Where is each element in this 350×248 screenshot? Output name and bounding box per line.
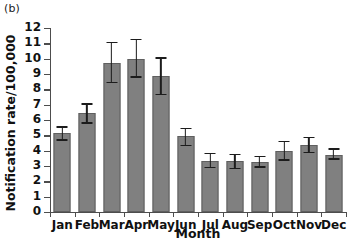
error-bar-cap-lower	[205, 167, 216, 168]
error-bar-feb	[81, 103, 92, 124]
error-bar-cap-upper	[229, 154, 240, 155]
error-bar-jun	[180, 128, 191, 146]
x-tick-mark	[124, 212, 125, 217]
bar-jul	[202, 161, 219, 212]
x-tick-mark	[247, 212, 248, 217]
y-tick-label: 12	[24, 20, 41, 35]
y-tick-label: 3	[33, 158, 41, 173]
error-bar-cap-upper	[131, 39, 142, 40]
error-bar-aug	[229, 154, 240, 169]
error-bar-cap-upper	[205, 153, 216, 154]
error-bar-cap-lower	[303, 152, 314, 153]
error-bar-stem	[308, 137, 309, 153]
error-bar-cap-lower	[81, 122, 92, 123]
x-tick-mark	[50, 212, 51, 217]
y-tick-label: 2	[33, 173, 41, 188]
x-tick-mark	[272, 212, 273, 217]
error-bar-nov	[303, 137, 314, 153]
bar-group-nov	[297, 28, 322, 212]
error-bar-cap-upper	[279, 141, 290, 142]
bar-group-mar	[99, 28, 124, 212]
x-tick-mark	[99, 212, 100, 217]
y-tick-label: 8	[33, 81, 41, 96]
bar-sep	[251, 162, 268, 212]
error-bar-cap-lower	[106, 82, 117, 83]
bar-group-sep	[247, 28, 272, 212]
y-tick-label: 10	[24, 51, 41, 66]
x-tick-mark	[173, 212, 174, 217]
error-bar-cap-lower	[180, 145, 191, 146]
x-tick-mark	[346, 212, 347, 217]
error-bar-stem	[284, 141, 285, 161]
error-bar-cap-upper	[57, 126, 68, 127]
bar-group-may	[149, 28, 174, 212]
error-bar-cap-upper	[155, 57, 166, 58]
y-tick-label: 7	[33, 97, 41, 112]
error-bar-apr	[131, 39, 142, 78]
bar-group-jun	[173, 28, 198, 212]
x-tick-mark	[198, 212, 199, 217]
error-bar-sep	[254, 156, 265, 168]
bar-jun	[177, 136, 194, 212]
y-tick-label: 1	[33, 189, 41, 204]
error-bar-mar	[106, 42, 117, 83]
error-bar-cap-upper	[328, 148, 339, 149]
y-tick-label: 4	[33, 143, 41, 158]
bar-jan	[54, 133, 71, 212]
x-tick-mark	[75, 212, 76, 217]
error-bar-cap-lower	[254, 166, 265, 167]
y-tick-label: 5	[33, 127, 41, 142]
error-bar-cap-upper	[303, 137, 314, 138]
x-tick-mark	[149, 212, 150, 217]
y-axis-title: Notification rate/100,000	[2, 30, 18, 216]
bar-nov	[300, 145, 317, 212]
bar-group-feb	[75, 28, 100, 212]
panel-label: (b)	[4, 3, 20, 15]
bar-series	[50, 28, 346, 212]
error-bar-may	[155, 57, 166, 95]
error-bar-stem	[111, 42, 112, 83]
y-tick-label: 11	[24, 35, 41, 50]
bar-group-jul	[198, 28, 223, 212]
bar-group-oct	[272, 28, 297, 212]
bar-group-jan	[50, 28, 75, 212]
y-tick-label: 0	[33, 204, 41, 219]
error-bar-cap-lower	[328, 158, 339, 159]
bar-apr	[128, 59, 145, 212]
error-bar-cap-lower	[279, 159, 290, 160]
bar-may	[152, 76, 169, 212]
error-bar-cap-lower	[155, 94, 166, 95]
error-bar-cap-upper	[81, 103, 92, 104]
bar-feb	[78, 113, 95, 212]
x-axis-title: Month	[50, 226, 346, 241]
error-bar-stem	[136, 39, 137, 78]
error-bar-cap-upper	[180, 128, 191, 129]
error-bar-cap-lower	[131, 76, 142, 77]
y-tick-label: 9	[33, 66, 41, 81]
error-bar-jan	[57, 126, 68, 141]
error-bar-stem	[86, 103, 87, 124]
plot-area: 0123456789101112 JanFebMarAprMayJunJulAu…	[50, 28, 346, 212]
y-axis-title-text: Notification rate/100,000	[3, 34, 18, 211]
error-bar-oct	[279, 141, 290, 161]
bar-group-dec	[321, 28, 346, 212]
error-bar-jul	[205, 153, 216, 168]
error-bar-stem	[185, 128, 186, 146]
error-bar-stem	[160, 57, 161, 95]
error-bar-cap-lower	[57, 139, 68, 140]
error-bar-dec	[328, 148, 339, 160]
bar-mar	[103, 63, 120, 213]
x-tick-mark	[223, 212, 224, 217]
bar-dec	[325, 155, 342, 213]
x-tick-mark	[321, 212, 322, 217]
y-tick-label: 6	[33, 112, 41, 127]
error-bar-cap-lower	[229, 168, 240, 169]
bar-group-apr	[124, 28, 149, 212]
error-bar-cap-upper	[254, 156, 265, 157]
error-bar-cap-upper	[106, 42, 117, 43]
figure-panel-b: (b) Notification rate/100,000 0123456789…	[0, 0, 350, 248]
bar-group-aug	[223, 28, 248, 212]
x-tick-mark	[297, 212, 298, 217]
